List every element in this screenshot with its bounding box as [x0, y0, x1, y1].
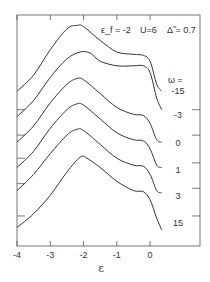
x-tick-label: -1 — [113, 250, 121, 260]
spectral-function-chart: -4-3-2-10 ε_f = -2 U=6 Δ̃ = 0.7 ω = -15-… — [0, 0, 210, 282]
x-tick-label: -2 — [80, 250, 88, 260]
series-label: 3 — [175, 191, 180, 201]
series-label: -3 — [174, 110, 182, 120]
x-tick-label: 0 — [148, 250, 153, 260]
series-label: -15 — [171, 86, 184, 96]
x-axis-label: ε — [98, 262, 104, 275]
curve-omega-3 — [17, 129, 162, 193]
x-tick-label: -3 — [46, 250, 54, 260]
series-labels: -15-301315 — [171, 86, 184, 228]
series-label: 0 — [175, 138, 180, 148]
curve-omega-15 — [17, 156, 162, 230]
u-annotation: U=6 — [140, 25, 157, 35]
eps-f-annotation: ε_f = -2 — [101, 25, 131, 35]
delta-annotation: Δ̃ = 0.7 — [167, 25, 196, 35]
series-label: 1 — [175, 165, 180, 175]
curves — [17, 25, 162, 230]
series-label: 15 — [173, 218, 183, 228]
legend-title: ω = — [168, 75, 183, 85]
plot-frame — [17, 15, 200, 246]
annotation: ε_f = -2 U=6 Δ̃ = 0.7 — [101, 25, 196, 35]
x-tick-label: -4 — [13, 250, 21, 260]
